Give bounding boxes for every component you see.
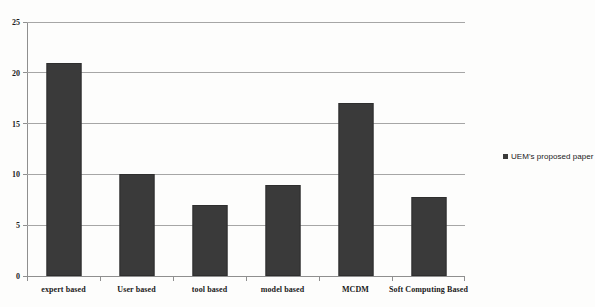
x-tick-mark [464,277,465,281]
x-axis-ticks [27,277,465,282]
x-axis-label: User based [117,285,155,294]
bar [265,185,300,276]
cropped-caption-remnant [30,0,450,4]
x-tick-mark [173,277,174,281]
legend-swatch-icon [503,154,508,159]
y-tick-label-15: 15 [12,119,20,128]
x-axis-label: tool based [192,285,227,294]
bar-slot [392,22,465,276]
x-axis-label: model based [261,285,305,294]
bar-slot [27,22,100,276]
bar-series-group [27,22,465,276]
legend-entry-label: UEM's proposed paper [511,152,594,161]
x-axis-labels: expert basedUser basedtool basedmodel ba… [27,285,465,301]
y-tick-label-5: 5 [16,221,20,230]
x-tick-mark [27,277,28,281]
y-tick-label-0: 0 [16,272,20,281]
bar-slot [319,22,392,276]
x-axis-label: expert based [41,285,86,294]
y-tick-label-10: 10 [12,170,20,179]
bar [338,103,373,276]
bar-slot [173,22,246,276]
x-tick-mark [246,277,247,281]
x-tick-mark [392,277,393,281]
bar [46,63,81,276]
chart-legend: UEM's proposed paper [503,152,594,161]
x-tick-mark [100,277,101,281]
bar [411,197,446,276]
bar-slot [246,22,319,276]
bar [119,174,154,276]
bar [192,205,227,276]
x-tick-mark [319,277,320,281]
y-tick-label-25: 25 [12,18,20,27]
plot-area: 0510152025 [27,22,465,276]
bar-chart-figure: 0510152025 expert basedUser basedtool ba… [0,0,595,307]
x-axis-label: MCDM [342,285,369,294]
bar-slot [100,22,173,276]
x-axis-label: Soft Computing Based [389,285,468,294]
y-tick-label-20: 20 [12,68,20,77]
